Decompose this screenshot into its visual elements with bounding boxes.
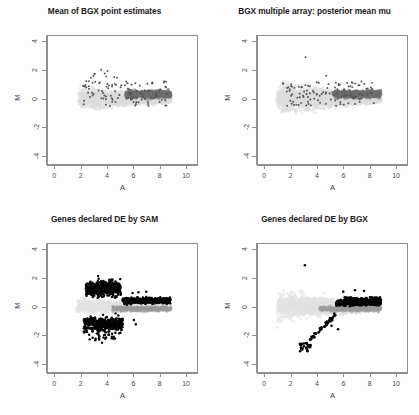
x-axis-label: A: [257, 183, 408, 192]
panel-genes-declared-de-by-bgx: Genes declared DE by BGX -4-2024 0246810…: [210, 208, 419, 415]
y-tick: [252, 41, 256, 42]
x-axis-label: A: [47, 183, 198, 192]
y-axis-label: M: [13, 302, 22, 308]
x-tick: [186, 165, 187, 169]
x-axis: 0246810: [47, 373, 198, 374]
y-tick-label: 4: [31, 39, 38, 43]
x-tick-label: 8: [368, 380, 372, 387]
x-tick: [107, 165, 108, 169]
panel-title: Genes declared DE by BGX: [210, 214, 419, 224]
y-axis: -4-2024: [256, 243, 257, 373]
y-tick: [252, 127, 256, 128]
x-tick: [133, 165, 134, 169]
ma-plot-figure: Mean of BGX point estimates -4-2024 0246…: [0, 0, 419, 415]
y-tick: [42, 156, 46, 157]
y-tick-label: 0: [31, 97, 38, 101]
y-tick: [252, 99, 256, 100]
x-axis: 0246810: [257, 165, 408, 166]
x-axis-line: [257, 373, 408, 374]
x-tick: [396, 165, 397, 169]
x-tick-label: 2: [289, 172, 293, 179]
x-tick-label: 0: [262, 172, 266, 179]
x-tick: [264, 373, 265, 377]
y-tick: [252, 364, 256, 365]
y-tick-label: 4: [241, 39, 248, 43]
y-axis: -4-2024: [256, 35, 257, 165]
scatter-points: [48, 36, 197, 164]
x-axis-label: A: [257, 391, 408, 400]
scatter-points: [48, 244, 197, 372]
y-tick: [42, 70, 46, 71]
x-tick-label: 10: [182, 380, 190, 387]
panel-mean-of-bgx-point-estimates: Mean of BGX point estimates -4-2024 0246…: [0, 0, 209, 207]
x-tick-label: 2: [289, 380, 293, 387]
y-tick-label: 4: [241, 247, 248, 251]
y-axis-line: [256, 243, 257, 373]
x-tick-label: 0: [262, 380, 266, 387]
y-tick-label: 4: [31, 247, 38, 251]
scatter-points: [258, 36, 407, 164]
x-tick: [133, 373, 134, 377]
panel-title: Mean of BGX point estimates: [0, 6, 209, 16]
y-tick-label: -4: [243, 361, 250, 367]
x-tick: [54, 165, 55, 169]
y-axis-label: M: [223, 94, 232, 100]
panel-bgx-multiple-array-posterior-mean-mu: BGX multiple array: posterior mean mu -4…: [210, 0, 419, 207]
x-tick-label: 4: [315, 380, 319, 387]
y-axis-line: [256, 35, 257, 165]
y-tick: [42, 41, 46, 42]
y-axis: -4-2024: [46, 35, 47, 165]
x-tick: [291, 373, 292, 377]
x-tick: [107, 373, 108, 377]
y-tick-label: -4: [243, 153, 250, 159]
x-tick-label: 4: [105, 380, 109, 387]
y-axis-label: M: [223, 302, 232, 308]
y-tick-label: 0: [31, 305, 38, 309]
x-tick-label: 10: [392, 380, 400, 387]
x-tick-label: 6: [341, 172, 345, 179]
plot-area: [47, 243, 198, 373]
x-tick: [81, 373, 82, 377]
plot-area: [47, 35, 198, 165]
x-tick: [396, 373, 397, 377]
y-tick-label: -2: [33, 124, 40, 130]
y-tick: [42, 278, 46, 279]
y-tick: [42, 335, 46, 336]
y-tick-label: -4: [33, 361, 40, 367]
y-tick-label: -2: [33, 332, 40, 338]
x-tick-label: 0: [52, 172, 56, 179]
y-tick-label: 2: [241, 68, 248, 72]
y-tick-label: 2: [241, 276, 248, 280]
y-tick: [252, 156, 256, 157]
y-tick: [42, 99, 46, 100]
x-tick-label: 6: [131, 172, 135, 179]
x-tick-label: 4: [315, 172, 319, 179]
y-tick: [42, 307, 46, 308]
plot-area: [257, 35, 408, 165]
y-tick-label: 2: [31, 276, 38, 280]
y-tick-label: 0: [241, 97, 248, 101]
y-tick: [42, 127, 46, 128]
x-tick-label: 10: [392, 172, 400, 179]
x-tick-label: 2: [79, 172, 83, 179]
scatter-points: [258, 244, 407, 372]
x-axis-line: [47, 373, 198, 374]
y-tick-label: 2: [31, 68, 38, 72]
y-tick-label: -4: [33, 153, 40, 159]
x-tick-label: 6: [131, 380, 135, 387]
y-axis-line: [46, 243, 47, 373]
x-tick-label: 0: [52, 380, 56, 387]
y-tick: [42, 364, 46, 365]
x-tick-label: 6: [341, 380, 345, 387]
y-tick-label: 0: [241, 305, 248, 309]
x-axis: 0246810: [257, 373, 408, 374]
x-tick: [343, 165, 344, 169]
y-tick: [252, 249, 256, 250]
x-tick: [186, 373, 187, 377]
x-tick: [54, 373, 55, 377]
x-tick: [317, 373, 318, 377]
y-tick: [252, 307, 256, 308]
x-tick-label: 8: [158, 172, 162, 179]
y-tick-label: -2: [243, 124, 250, 130]
panel-genes-declared-de-by-sam: Genes declared DE by SAM -4-2024 0246810…: [0, 208, 209, 415]
